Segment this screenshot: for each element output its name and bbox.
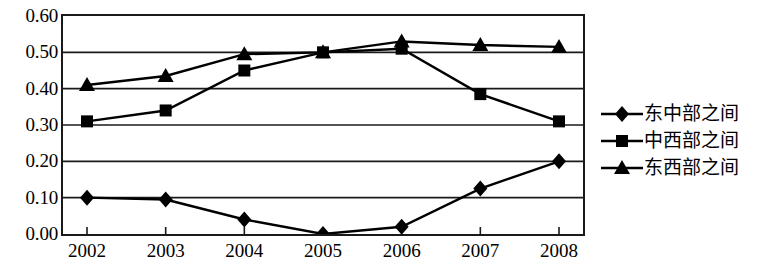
y-axis: 0.000.100.200.300.400.500.60 <box>0 0 58 270</box>
x-tick-label: 2008 <box>519 240 599 262</box>
square-marker <box>160 104 172 116</box>
series-line <box>87 49 559 122</box>
legend: 东中部之间中西部之间东西部之间 <box>600 100 758 181</box>
plot-svg <box>63 16 583 234</box>
x-tick-label: 2005 <box>283 240 363 262</box>
square-marker <box>238 65 250 77</box>
diamond-icon <box>600 103 644 125</box>
x-tick-label: 2006 <box>362 240 442 262</box>
legend-item-1[interactable]: 东中部之间 <box>600 100 758 127</box>
diamond-marker <box>615 106 629 122</box>
diamond-marker <box>159 191 173 207</box>
line-chart: 0.000.100.200.300.400.500.60 20022003200… <box>0 0 758 270</box>
plot-area <box>61 14 585 236</box>
square-marker <box>81 115 93 127</box>
diamond-marker <box>552 153 566 169</box>
square-marker <box>553 115 565 127</box>
legend-label: 东中部之间 <box>644 103 739 125</box>
legend-label: 中西部之间 <box>644 130 739 152</box>
legend-item-3[interactable]: 东西部之间 <box>600 154 758 181</box>
x-axis: 2002200320042005200620072008 <box>61 240 585 268</box>
square-marker <box>474 88 486 100</box>
series-lines <box>87 41 559 234</box>
legend-label: 东西部之间 <box>644 157 739 179</box>
x-tick-label: 2004 <box>204 240 284 262</box>
square-marker <box>616 135 628 147</box>
diamond-marker <box>395 219 409 234</box>
diamond-marker <box>316 226 330 234</box>
y-tick-label: 0.40 <box>2 79 58 98</box>
series-markers <box>79 33 567 234</box>
y-tick-label: 0.10 <box>2 188 58 207</box>
x-tick-label: 2007 <box>440 240 520 262</box>
gridlines <box>63 52 583 197</box>
legend-item-2[interactable]: 中西部之间 <box>600 127 758 154</box>
y-tick-label: 0.30 <box>2 115 58 134</box>
triangle-marker <box>394 33 410 47</box>
y-tick-label: 0.60 <box>2 6 58 25</box>
y-tick-label: 0.20 <box>2 151 58 170</box>
x-tick-label: 2002 <box>47 240 127 262</box>
diamond-marker <box>473 181 487 197</box>
triangle-icon <box>600 157 644 179</box>
diamond-marker <box>80 190 94 206</box>
diamond-marker <box>237 211 251 227</box>
x-tick-label: 2003 <box>126 240 206 262</box>
y-tick-label: 0.50 <box>2 42 58 61</box>
square-icon <box>600 130 644 152</box>
